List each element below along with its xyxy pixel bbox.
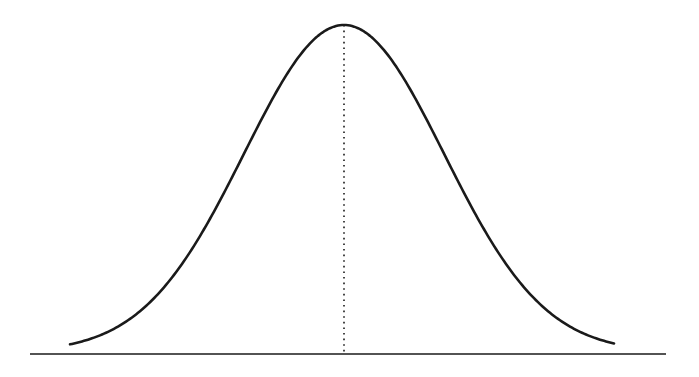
background	[0, 0, 699, 377]
bell-curve-diagram	[0, 0, 699, 377]
